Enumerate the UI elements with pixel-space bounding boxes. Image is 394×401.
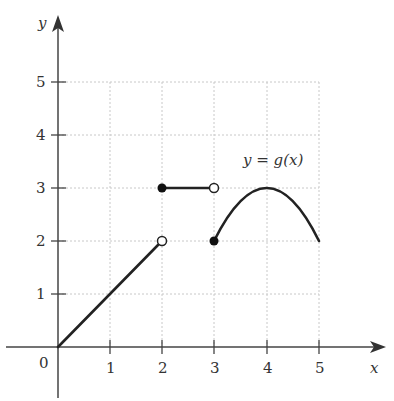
x-tick-2: 2 (158, 359, 168, 377)
y-tick-3: 3 (36, 179, 46, 197)
x-tick-5: 5 (315, 359, 325, 377)
origin-label: 0 (39, 354, 49, 372)
function-graph (58, 188, 319, 347)
y-tick-4: 4 (36, 126, 46, 144)
y-tick-2: 2 (36, 232, 46, 250)
y-axis-label: y (37, 14, 47, 32)
closed-point-3-2 (210, 237, 219, 246)
function-label: y = g(x) (242, 151, 303, 169)
open-point-2-2 (158, 237, 167, 246)
y-tick-5: 5 (36, 73, 46, 91)
x-tick-1: 1 (106, 359, 116, 377)
y-tick-1: 1 (36, 285, 46, 303)
x-tick-3: 3 (210, 359, 220, 377)
x-tick-4: 4 (263, 359, 273, 377)
closed-point-2-3 (158, 184, 167, 193)
chart: 1 2 3 4 5 1 2 3 4 5 0 x y y = g(x) (0, 0, 394, 401)
y-axis (52, 15, 64, 398)
segment-1 (58, 245, 158, 347)
x-axis-label: x (370, 359, 379, 377)
open-point-3-3 (210, 184, 219, 193)
